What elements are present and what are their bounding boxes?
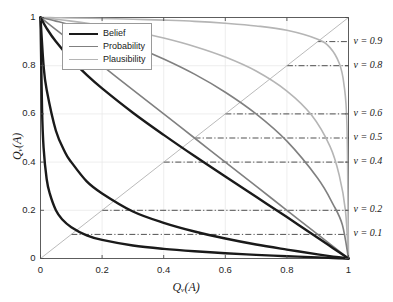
y-tick-label: 0.2: [0, 204, 36, 215]
legend-line-swatch: [69, 46, 98, 47]
x-tick-label: 0.4: [152, 264, 176, 275]
legend-item: Belief: [63, 27, 151, 40]
legend-item: Plausibility: [63, 53, 151, 66]
nu-level-label: ν = 0.8: [354, 59, 383, 70]
x-tick-label: 0: [29, 264, 53, 275]
chart-legend: BeliefProbabilityPlausibility: [62, 23, 152, 70]
x-tick-label: 0.2: [90, 264, 114, 275]
x-tick-label: 0.8: [275, 264, 299, 275]
legend-label: Probability: [103, 40, 145, 53]
nu-level-label: ν = 0.9: [354, 35, 383, 46]
nu-level-label: ν = 0.1: [354, 227, 383, 238]
legend-item: Probability: [63, 40, 151, 53]
nu-level-label: ν = 0.5: [354, 131, 383, 142]
nu-level-lines: [71, 42, 348, 235]
legend-label: Plausibility: [103, 53, 146, 66]
legend-label: Belief: [103, 27, 126, 40]
y-axis-label: Qᵥ(A): [10, 133, 25, 160]
legend-line-swatch: [69, 33, 98, 35]
y-tick-label: 0.6: [0, 107, 36, 118]
legend-line-swatch: [69, 59, 98, 60]
figure: 00.20.40.60.81 00.20.40.60.81 ν = 0.9ν =…: [0, 0, 393, 302]
x-axis-label: Qᵥ(A): [173, 280, 200, 295]
y-tick-label: 0: [0, 252, 36, 263]
y-tick-label: 1: [0, 11, 36, 22]
y-tick-label: 0.8: [0, 59, 36, 70]
nu-level-label: ν = 0.6: [354, 107, 383, 118]
nu-level-label: ν = 0.2: [354, 203, 383, 214]
chart-canvas: [0, 0, 393, 302]
x-tick-label: 1: [337, 264, 361, 275]
x-tick-label: 0.6: [213, 264, 237, 275]
nu-level-label: ν = 0.4: [354, 155, 383, 166]
